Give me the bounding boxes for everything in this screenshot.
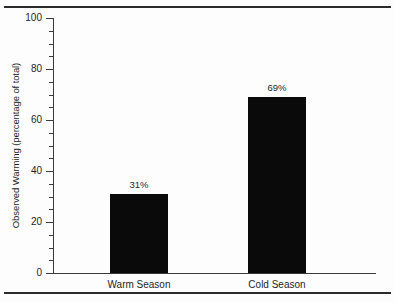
y-tick-label: 100	[2, 13, 42, 23]
y-tick-major	[46, 222, 53, 223]
y-tick-minor	[49, 44, 53, 45]
page-rule-top	[4, 6, 391, 8]
y-tick-major	[46, 273, 53, 274]
y-tick-minor	[49, 146, 53, 147]
y-tick-label: 0	[2, 268, 42, 278]
y-tick-minor	[49, 82, 53, 83]
y-tick-label: 80	[2, 64, 42, 74]
y-tick-major	[46, 69, 53, 70]
y-tick-minor	[49, 56, 53, 57]
x-axis-line	[53, 273, 376, 274]
y-tick-label: 60	[2, 115, 42, 125]
y-tick-minor	[49, 133, 53, 134]
x-category-label: Cold Season	[217, 279, 337, 291]
y-tick-label: 20	[2, 217, 42, 227]
bar-value-label: 31%	[109, 180, 169, 190]
y-axis-title: Observed Warming (percentage of total)	[8, 18, 24, 273]
y-tick-minor	[49, 248, 53, 249]
y-tick-minor	[49, 31, 53, 32]
y-tick-minor	[49, 260, 53, 261]
y-tick-minor	[49, 209, 53, 210]
y-tick-major	[46, 120, 53, 121]
y-axis-line	[53, 18, 54, 273]
y-tick-major	[46, 171, 53, 172]
y-tick-minor	[49, 95, 53, 96]
y-tick-minor	[49, 197, 53, 198]
bar-warm-season	[110, 194, 168, 273]
y-tick-minor	[49, 235, 53, 236]
y-tick-minor	[49, 184, 53, 185]
y-tick-minor	[49, 158, 53, 159]
bar-value-label: 69%	[247, 83, 307, 93]
bar-cold-season	[248, 97, 306, 273]
page-rule-bottom	[4, 292, 391, 294]
y-tick-minor	[49, 107, 53, 108]
y-tick-major	[46, 18, 53, 19]
bar-chart-figure: Observed Warming (percentage of total) 0…	[0, 0, 395, 302]
x-category-label: Warm Season	[79, 279, 199, 291]
y-tick-label: 40	[2, 166, 42, 176]
